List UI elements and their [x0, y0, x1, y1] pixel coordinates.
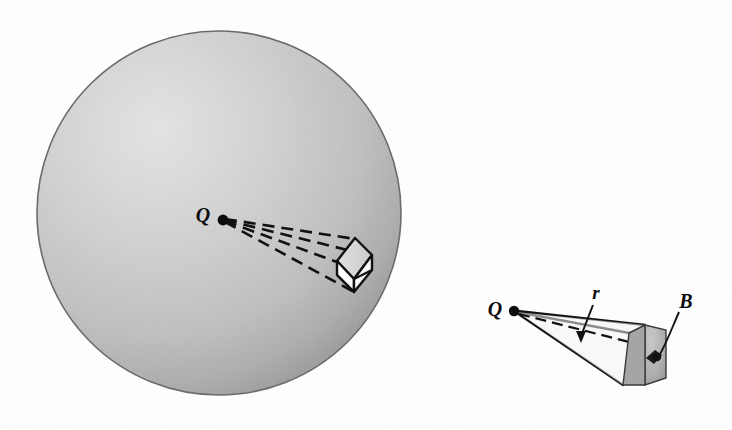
sphere-cone-diagram: Q: [37, 31, 401, 395]
charge-label-right: Q: [488, 298, 502, 320]
shaded-sphere: [37, 31, 401, 395]
area-label: B: [678, 290, 692, 312]
charge-label-left: Q: [196, 204, 210, 226]
area-patch: [623, 325, 666, 385]
figure-canvas: Q r: [0, 0, 732, 430]
area-element-dot: [653, 353, 661, 361]
radius-label: r: [592, 282, 600, 303]
point-charge-dot-right: [509, 306, 519, 316]
physics-figure: Point charge Q at center of sphere with …: [0, 0, 732, 430]
point-charge-dot-left: [218, 215, 229, 226]
